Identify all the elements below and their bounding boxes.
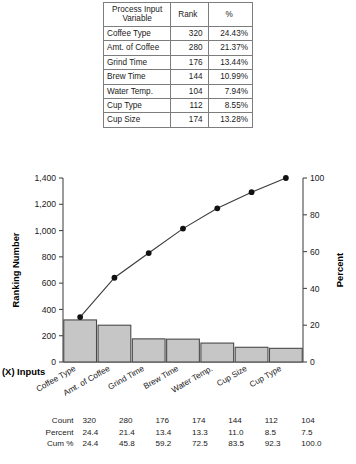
right-axis-tick-label: 60 <box>310 247 320 257</box>
cell-rank: 320 <box>171 26 208 40</box>
left-axis-tick-label: 1,400 <box>34 173 56 183</box>
cell-variable: Cup Type <box>104 98 171 112</box>
process-input-rank-table: Process Input Variable Rank % Coffee Typ… <box>103 2 253 128</box>
stats-cell: 112 <box>265 416 301 428</box>
table-row: Amt. of Coffee28021.37% <box>104 41 253 55</box>
cell-rank: 144 <box>171 70 208 84</box>
table-row: Cup Type1128.55% <box>104 98 253 112</box>
cell-percent: 13.28% <box>208 113 253 127</box>
stats-cell: 24.4 <box>82 439 118 451</box>
y-axis-title: Ranking Number <box>10 232 21 307</box>
stats-cell: 13.4 <box>155 428 191 440</box>
cell-percent: 13.44% <box>208 55 253 69</box>
cell-percent: 8.55% <box>208 98 253 112</box>
stats-cell: 13.3 <box>192 428 228 440</box>
pareto-bar <box>167 339 200 362</box>
pareto-bar <box>64 320 97 362</box>
left-axis-tick-label: 1,000 <box>34 226 56 236</box>
pareto-bar <box>235 347 268 362</box>
stats-cell: 8.5 <box>265 428 301 440</box>
stats-row: Count320280176174144112104 <box>22 416 338 428</box>
cell-variable: Grind Time <box>104 55 171 69</box>
cell-percent: 24.43% <box>208 26 253 40</box>
stats-cell: 280 <box>119 416 155 428</box>
stats-cell: 92.3 <box>265 439 301 451</box>
header-line-2: Variable <box>122 14 151 23</box>
stats-cell: 100.0 <box>301 439 338 451</box>
cell-variable: Water Temp. <box>104 84 171 98</box>
stats-row: Cum %24.445.859.272.583.592.3100.0 <box>22 439 338 451</box>
header-line-1: Process Input <box>112 5 162 14</box>
cell-rank: 176 <box>171 55 208 69</box>
table-row: Water Temp.1047.94% <box>104 84 253 98</box>
cumulative-point <box>249 189 255 195</box>
right-axis-tick-label: 40 <box>310 284 320 294</box>
stats-cell: 21.4 <box>119 428 155 440</box>
cumulative-point <box>214 205 220 211</box>
cell-rank: 112 <box>171 98 208 112</box>
cell-rank: 280 <box>171 41 208 55</box>
cell-variable: Cup Size <box>104 113 171 127</box>
stats-cell: 174 <box>192 416 228 428</box>
cell-percent: 7.94% <box>208 84 253 98</box>
pareto-bar <box>132 339 165 362</box>
cumulative-point <box>283 175 289 181</box>
stats-cell: 24.4 <box>82 428 118 440</box>
stats-row: Percent24.421.413.413.311.08.57.5 <box>22 428 338 440</box>
left-axis-tick-label: 1,200 <box>34 199 56 209</box>
cell-variable: Amt. of Coffee <box>104 41 171 55</box>
table-row: Coffee Type32024.43% <box>104 26 253 40</box>
cumulative-point <box>180 226 186 232</box>
cell-variable: Coffee Type <box>104 26 171 40</box>
right-axis-tick-label: 0 <box>310 357 315 367</box>
stats-row-label: Cum % <box>22 439 82 451</box>
cumulative-point <box>146 250 152 256</box>
y2-axis-title: Percent <box>334 253 345 287</box>
x-axis-category-label: Grind Time <box>107 364 147 392</box>
stats-row-label: Count <box>22 416 82 428</box>
stats-row-label: Percent <box>22 428 82 440</box>
right-axis-tick-label: 20 <box>310 320 320 330</box>
stats-cell: 45.8 <box>119 439 155 451</box>
right-axis-tick-label: 100 <box>310 173 325 183</box>
x-axis-title: (X) Inputs <box>2 366 45 377</box>
table-row: Cup Size17413.28% <box>104 113 253 127</box>
pareto-bar <box>201 343 234 362</box>
pareto-stats-table: Count320280176174144112104Percent24.421.… <box>0 416 356 451</box>
cell-rank: 104 <box>171 84 208 98</box>
left-axis-tick-label: 400 <box>42 305 57 315</box>
left-axis-tick-label: 800 <box>42 252 57 262</box>
header-percent: % <box>208 3 253 27</box>
table-row: Grind Time17613.44% <box>104 55 253 69</box>
cell-variable: Brew Time <box>104 70 171 84</box>
cell-percent: 10.99% <box>208 70 253 84</box>
stats-cell: 144 <box>228 416 264 428</box>
header-process-input-variable: Process Input Variable <box>104 3 171 27</box>
stats-cell: 104 <box>301 416 338 428</box>
header-rank: Rank <box>171 3 208 27</box>
x-axis-category-label: Cup Size <box>215 364 249 389</box>
stats-cell: 176 <box>155 416 191 428</box>
table-header-row: Process Input Variable Rank % <box>104 3 253 27</box>
pareto-bar <box>98 325 131 362</box>
stats-cell: 7.5 <box>301 428 338 440</box>
stats-cell: 11.0 <box>228 428 264 440</box>
left-axis-tick-label: 200 <box>42 331 57 341</box>
cell-rank: 174 <box>171 113 208 127</box>
stats-cell: 83.5 <box>228 439 264 451</box>
cumulative-point <box>77 314 83 320</box>
pareto-bar <box>269 348 302 362</box>
stats-cell: 72.5 <box>192 439 228 451</box>
cumulative-line <box>80 178 286 317</box>
cell-percent: 21.37% <box>208 41 253 55</box>
left-axis-tick-label: 0 <box>51 357 56 367</box>
right-axis-tick-label: 80 <box>310 210 320 220</box>
x-axis-category-label: Cup Type <box>248 364 283 389</box>
table-row: Brew Time14410.99% <box>104 70 253 84</box>
stats-cell: 59.2 <box>155 439 191 451</box>
cumulative-point <box>112 275 118 281</box>
left-axis-tick-label: 600 <box>42 278 57 288</box>
stats-cell: 320 <box>82 416 118 428</box>
